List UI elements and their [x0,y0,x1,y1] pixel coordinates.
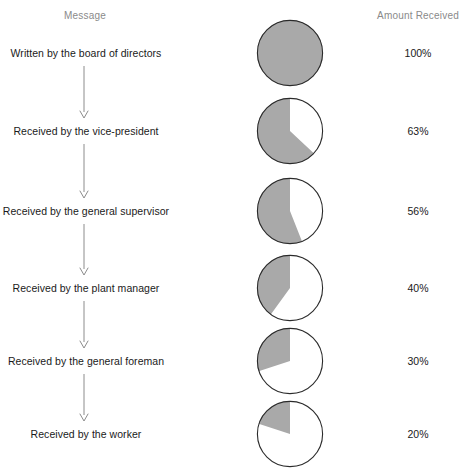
arrow-general-foreman-to-worker [76,374,92,421]
column-header-amount-received: Amount Received [368,10,468,21]
pie-chart-board-of-directors [256,19,324,87]
arrow-plant-manager-to-general-foreman [76,301,92,348]
arrow-board-to-vice-president [76,66,92,118]
row-amount-received-value: 100% [368,47,468,59]
row-amount-received-value: 56% [368,205,468,217]
row-message-label: Received by the general supervisor [0,205,172,217]
row-amount-received-value: 63% [368,125,468,137]
communication-flow-chart: Message Amount Received Written by the b… [0,0,468,471]
row-message-label: Written by the board of directors [0,47,172,59]
row-message-label: Received by the plant manager [0,282,172,294]
row-amount-received-value: 40% [368,282,468,294]
row-amount-received-value: 20% [368,428,468,440]
row-message-label: Received by the vice-president [0,125,172,137]
pie-chart-worker [256,400,324,468]
pie-chart-plant-manager [256,254,324,322]
column-header-message: Message [0,10,170,21]
row-message-label: Received by the worker [0,428,172,440]
pie-chart-vice-president [256,97,324,165]
arrow-general-supervisor-to-plant-manager [76,224,92,275]
row-message-label: Received by the general foreman [0,355,172,367]
pie-chart-general-supervisor [256,177,324,245]
arrow-vice-president-to-general-supervisor [76,144,92,198]
row-amount-received-value: 30% [368,355,468,367]
pie-chart-general-foreman [256,327,324,395]
